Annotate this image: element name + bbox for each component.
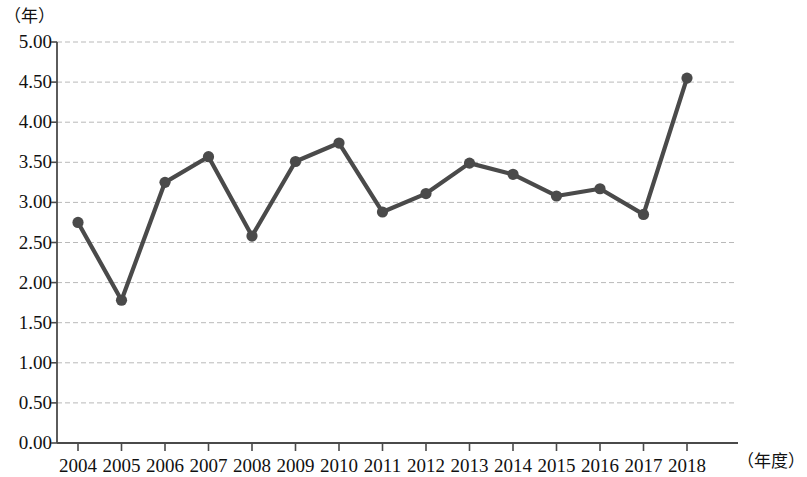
data-point-marker (551, 190, 562, 201)
gridlines (57, 42, 736, 443)
axis-ticks (51, 42, 687, 451)
series-markers (72, 72, 692, 305)
line-chart: （年） （年度） 5.004.504.003.503.002.502.001.5… (0, 0, 807, 477)
data-point-marker (594, 183, 605, 194)
data-point-marker (116, 295, 127, 306)
data-point-marker (333, 137, 344, 148)
data-point-marker (681, 72, 692, 83)
data-point-marker (72, 217, 83, 228)
data-point-marker (507, 169, 518, 180)
data-point-marker (420, 188, 431, 199)
data-point-marker (159, 177, 170, 188)
data-point-marker (464, 158, 475, 169)
plot-area (0, 0, 807, 477)
data-point-marker (203, 151, 214, 162)
data-point-marker (290, 156, 301, 167)
data-point-marker (377, 206, 388, 217)
data-point-marker (638, 209, 649, 220)
data-point-marker (246, 230, 257, 241)
